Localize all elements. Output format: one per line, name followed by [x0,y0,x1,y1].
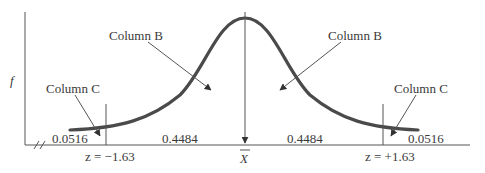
z-left-label: z = −1.63 [85,149,135,164]
body-right-area: 0.4484 [287,131,323,146]
tail-left-area: 0.0516 [52,131,88,146]
y-axis-label: f [10,73,16,88]
tail-right-area: 0.0516 [408,131,444,146]
column-c-left-label: Column C [46,81,100,96]
column-c-right-label: Column C [394,81,448,96]
mean-label: X [239,151,249,166]
z-right-label: z = +1.63 [365,149,415,164]
body-left-area: 0.4484 [162,131,198,146]
column-b-left-label: Column B [109,28,163,43]
normal-distribution-diagram: f Column B Column B Column C Column C 0.… [0,0,485,173]
column-b-right-label: Column B [328,28,382,43]
